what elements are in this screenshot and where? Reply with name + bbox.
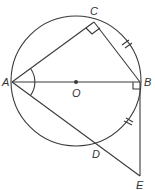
label-c: C (90, 5, 98, 17)
label-b: B (144, 76, 151, 88)
segment-ac (12, 22, 94, 82)
label-o: O (72, 87, 81, 99)
right-angle-b-icon (133, 82, 140, 89)
label-d: D (92, 148, 100, 160)
geometry-diagram: A B C O D E (0, 0, 155, 190)
label-a: A (1, 76, 9, 88)
right-angle-c-icon (86, 28, 100, 34)
label-e: E (136, 179, 144, 190)
center-point-o (74, 80, 78, 84)
